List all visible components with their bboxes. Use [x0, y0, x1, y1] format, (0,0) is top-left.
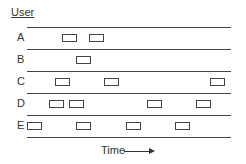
- diagram-title: User: [11, 6, 34, 18]
- row-label-b: B: [17, 53, 27, 65]
- arrow-right-icon: [149, 148, 155, 154]
- activity-box: [27, 122, 42, 130]
- divider-line: [27, 115, 231, 116]
- activity-box: [175, 122, 190, 130]
- row-label-d: D: [17, 97, 27, 109]
- activity-box: [89, 34, 104, 42]
- activity-box: [210, 78, 225, 86]
- activity-box: [147, 100, 162, 108]
- activity-box: [49, 100, 64, 108]
- activity-box: [69, 100, 84, 108]
- time-arrow-shaft: [124, 151, 150, 152]
- divider-line: [27, 27, 231, 28]
- row-label-e: E: [17, 119, 27, 131]
- activity-box: [196, 100, 211, 108]
- activity-box: [76, 56, 91, 64]
- time-axis-label: Time: [101, 144, 125, 156]
- activity-box: [55, 78, 70, 86]
- activity-box: [104, 78, 119, 86]
- activity-box: [62, 34, 77, 42]
- activity-box: [76, 122, 91, 130]
- activity-box: [126, 122, 141, 130]
- divider-line: [27, 137, 231, 138]
- row-label-a: A: [17, 31, 27, 43]
- divider-line: [27, 49, 231, 50]
- row-label-c: C: [17, 75, 27, 87]
- divider-line: [27, 71, 231, 72]
- divider-line: [27, 93, 231, 94]
